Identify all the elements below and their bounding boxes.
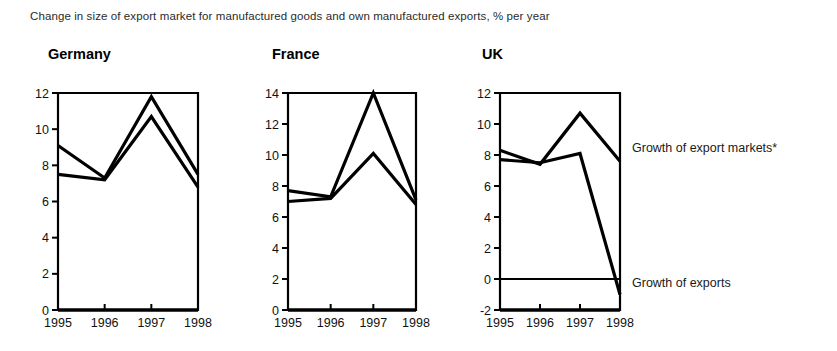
x-axis-tick-label: 1997 bbox=[566, 316, 594, 330]
plot-uk: -20246810121995199619971998 bbox=[468, 46, 653, 336]
x-axis-tick-label: 1995 bbox=[44, 316, 72, 330]
y-axis-tick-label: 4 bbox=[272, 242, 279, 256]
series-line-exports bbox=[288, 153, 416, 204]
y-axis-tick-label: 6 bbox=[272, 211, 279, 225]
y-axis-tick-label: 4 bbox=[484, 211, 491, 225]
y-axis-tick-label: 10 bbox=[35, 123, 49, 137]
figure: Change in size of export market for manu… bbox=[0, 0, 837, 351]
x-axis-tick-label: 1998 bbox=[184, 316, 212, 330]
chart-panel-uk: UK -20246810121995199619971998 bbox=[468, 46, 653, 336]
x-axis-tick-label: 1997 bbox=[137, 316, 165, 330]
y-axis-tick-label: 2 bbox=[272, 273, 279, 287]
x-axis-tick-label: 1995 bbox=[274, 316, 302, 330]
y-axis-tick-label: 8 bbox=[484, 149, 491, 163]
y-axis-tick-label: 6 bbox=[42, 195, 49, 209]
y-axis-tick-label: 4 bbox=[42, 231, 49, 245]
x-axis-tick-label: 1997 bbox=[359, 316, 387, 330]
series-line-export-markets bbox=[58, 97, 198, 178]
x-axis-tick-label: 1998 bbox=[402, 316, 430, 330]
y-axis-tick-label: 6 bbox=[484, 180, 491, 194]
y-axis-tick-label: 8 bbox=[272, 180, 279, 194]
legend-label-exports: Growth of exports bbox=[632, 276, 731, 290]
y-axis-tick-label: 2 bbox=[484, 242, 491, 256]
y-axis-tick-label: 0 bbox=[484, 273, 491, 287]
x-axis-tick-label: 1996 bbox=[526, 316, 554, 330]
x-axis-tick-label: 1996 bbox=[317, 316, 345, 330]
x-axis-tick-label: 1998 bbox=[606, 316, 634, 330]
x-axis-tick-label: 1995 bbox=[486, 316, 514, 330]
series-line-exports bbox=[58, 117, 198, 188]
y-axis-tick-label: 12 bbox=[35, 87, 49, 101]
y-axis-tick-label: 10 bbox=[265, 149, 279, 163]
y-axis-tick-label: 14 bbox=[265, 87, 279, 101]
plot-germany: 0246810121995199619971998 bbox=[20, 46, 240, 336]
figure-caption: Change in size of export market for manu… bbox=[30, 10, 550, 22]
legend-label-export-markets: Growth of export markets* bbox=[632, 141, 777, 155]
chart-panel-france: France 024681012141995199619971998 bbox=[250, 46, 470, 336]
chart-panel-germany: Germany 0246810121995199619971998 bbox=[20, 46, 240, 336]
y-axis-tick-label: 2 bbox=[42, 267, 49, 281]
y-axis-tick-label: 8 bbox=[42, 159, 49, 173]
x-axis-tick-label: 1996 bbox=[91, 316, 119, 330]
plot-france: 024681012141995199619971998 bbox=[250, 46, 470, 336]
y-axis-tick-label: 12 bbox=[265, 118, 279, 132]
y-axis-tick-label: 10 bbox=[477, 118, 491, 132]
y-axis-tick-label: 12 bbox=[477, 87, 491, 101]
series-line-exports bbox=[500, 153, 620, 294]
